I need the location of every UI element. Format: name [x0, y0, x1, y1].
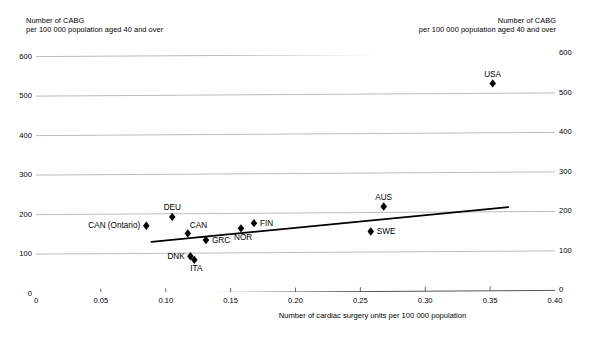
- gridline-100: [36, 251, 555, 254]
- point-label-grc: GRC: [212, 236, 230, 245]
- y-caption-left-line1: Number of CABG: [26, 16, 84, 25]
- y-axis-caption-left: Number of CABGper 100 000 population age…: [26, 16, 163, 35]
- plot-area: [36, 55, 555, 292]
- point-label-usa: USA: [484, 70, 501, 79]
- point-label-fin: FIN: [260, 219, 273, 228]
- x-tick-0.40: 0.40: [535, 296, 575, 305]
- y-tick-right-300: 300: [559, 167, 589, 176]
- marker-can: [185, 229, 192, 237]
- point-label-dnk: DNK: [167, 252, 184, 261]
- gridline-400: [36, 132, 555, 135]
- point-label-swe: SWE: [377, 227, 396, 236]
- point-label-deu: DEU: [164, 203, 181, 212]
- y-tick-left-500: 500: [2, 91, 32, 100]
- gridline-300: [36, 172, 555, 175]
- marker-usa: [489, 79, 496, 87]
- gridline-200: [36, 211, 555, 214]
- marker-fin: [251, 219, 258, 227]
- x-tick-0.15: 0.15: [211, 296, 251, 305]
- y-tick-left-300: 300: [2, 170, 32, 179]
- y-caption-left-line2: per 100 000 population aged 40 and over: [26, 25, 163, 34]
- x-tick-0.20: 0.20: [276, 296, 316, 305]
- point-label-nor: NOR: [234, 233, 252, 242]
- y-tick-left-100: 100: [2, 249, 32, 258]
- y-tick-right-100: 100: [559, 246, 589, 255]
- gridline-500: [36, 93, 555, 96]
- marker-aus: [380, 202, 387, 210]
- marker-canontario: [143, 222, 150, 230]
- y-caption-right-line2: per 100 000 population aged 40 and over: [419, 25, 556, 34]
- point-label-aus: AUS: [375, 193, 392, 202]
- y-tick-right-500: 500: [559, 88, 589, 97]
- marker-nor: [238, 224, 245, 232]
- x-tick-0.30: 0.30: [405, 296, 445, 305]
- data-markers: [143, 79, 496, 264]
- gridline-600: [36, 55, 555, 57]
- scatter-chart: cardiac surgery units Number of CABGper …: [0, 0, 600, 338]
- point-label-can: CAN: [190, 221, 207, 230]
- y-tick-right-0: 0: [559, 285, 589, 294]
- y-tick-right-600: 600: [559, 48, 589, 57]
- y-axis-caption-right: Number of CABGper 100 000 population age…: [419, 16, 556, 35]
- x-tick-0.25: 0.25: [340, 296, 380, 305]
- point-label-canontario: CAN (Ontario): [88, 221, 140, 230]
- x-tick-0: 0: [16, 296, 56, 305]
- y-tick-left-400: 400: [2, 131, 32, 140]
- y-tick-left-600: 600: [2, 52, 32, 61]
- y-tick-right-400: 400: [559, 127, 589, 136]
- x-axis-title: Number of cardiac surgery units per 100 …: [0, 311, 600, 320]
- x-tick-0.05: 0.05: [81, 296, 121, 305]
- point-label-ita: ITA: [190, 264, 202, 273]
- x-tick-0.35: 0.35: [470, 296, 510, 305]
- gridlines: [36, 55, 555, 292]
- x-tick-0.10: 0.10: [146, 296, 186, 305]
- marker-swe: [367, 227, 374, 235]
- y-tick-right-200: 200: [559, 206, 589, 215]
- y-caption-right-line1: Number of CABG: [498, 16, 556, 25]
- y-tick-left-200: 200: [2, 210, 32, 219]
